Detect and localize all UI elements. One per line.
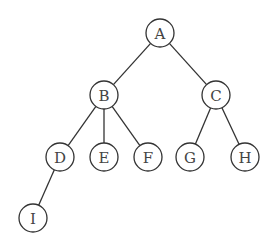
node-label: H xyxy=(238,149,251,167)
node-label: D xyxy=(54,149,66,167)
edge-a-c xyxy=(169,43,206,84)
node-h: H xyxy=(231,143,259,171)
edge-c-h xyxy=(222,108,239,145)
node-i: I xyxy=(19,204,47,232)
edge-d-i xyxy=(39,170,55,205)
node-label: E xyxy=(99,149,110,167)
node-f: F xyxy=(134,143,162,171)
edge-c-g xyxy=(195,108,210,144)
tree-diagram: ABCDEFGHI xyxy=(0,0,276,251)
node-label: I xyxy=(30,210,36,228)
node-e: E xyxy=(90,143,118,171)
edge-b-f xyxy=(112,106,140,145)
node-c: C xyxy=(202,81,230,109)
edge-a-b xyxy=(113,43,150,84)
node-label: G xyxy=(184,149,196,167)
node-b: B xyxy=(90,81,118,109)
nodes: ABCDEFGHI xyxy=(19,19,259,232)
node-label: C xyxy=(210,87,221,105)
node-label: A xyxy=(154,25,166,43)
node-label: F xyxy=(143,149,153,167)
node-d: D xyxy=(46,143,74,171)
node-g: G xyxy=(176,143,204,171)
edges xyxy=(39,43,239,205)
node-label: B xyxy=(98,87,109,105)
node-a: A xyxy=(146,19,174,47)
edge-b-d xyxy=(68,106,96,145)
